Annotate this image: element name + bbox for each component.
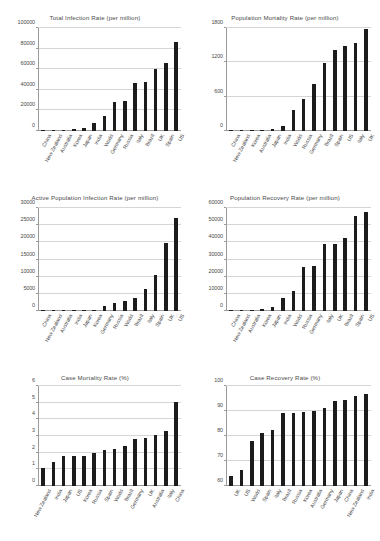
bar[interactable] [144, 438, 148, 486]
chart-panel-population-mortality-rate: Population Mortality Rate (per million) … [190, 0, 380, 180]
bar[interactable] [354, 43, 358, 131]
bar[interactable] [113, 303, 117, 311]
bar-slot [58, 208, 68, 311]
bar[interactable] [292, 110, 296, 131]
bar-slot [161, 386, 171, 486]
y-axis-tick-label: 1200 [211, 53, 223, 59]
bar-slot [361, 208, 371, 311]
bar-slot [319, 386, 329, 486]
bar[interactable] [41, 468, 45, 486]
bar[interactable] [364, 29, 368, 131]
plot-area: 0100002000030000400005000060000ChinaNew … [226, 208, 371, 311]
bar-slot [319, 28, 329, 131]
bar[interactable] [281, 413, 285, 486]
bar[interactable] [302, 99, 306, 131]
y-axis-tick-label: 20000 [21, 101, 36, 107]
bar[interactable] [333, 50, 337, 131]
bar[interactable] [174, 402, 178, 487]
bar-slot [340, 28, 350, 131]
bar[interactable] [281, 298, 285, 311]
bar[interactable] [229, 476, 233, 487]
bar[interactable] [154, 435, 158, 486]
bar[interactable] [364, 394, 368, 486]
bar[interactable] [292, 291, 296, 311]
y-axis-tick-label: 40000 [21, 81, 36, 87]
bar-slot [140, 28, 150, 131]
bar[interactable] [123, 301, 127, 311]
bar[interactable] [133, 439, 137, 487]
bar[interactable] [133, 83, 137, 131]
bar[interactable] [92, 123, 96, 131]
bar-slot [226, 386, 236, 486]
x-axis-labels: New ZealandIndiaJapanUSKoreaRussiaSpainW… [38, 486, 181, 534]
y-axis-tick-label: 10000 [209, 285, 224, 291]
bar[interactable] [271, 430, 275, 487]
bar[interactable] [82, 456, 86, 486]
bar[interactable] [52, 462, 56, 486]
bar-slot [278, 28, 288, 131]
x-axis-label: India [365, 488, 376, 501]
chart-panel-active-population-infection-rate: Active Population Infection Rate (per mi… [0, 180, 190, 360]
bar-slot [120, 386, 130, 486]
x-axis-labels: ChinaNew ZealandAustraliaKoreaJapanIndia… [38, 131, 181, 179]
x-axis-label: Brazil [133, 313, 144, 327]
y-axis-tick-label: 60 [217, 477, 223, 483]
bar[interactable] [354, 216, 358, 311]
chart-panel-population-recovery-rate: Population Recovery Rate (per million) 0… [190, 180, 380, 360]
bar[interactable] [164, 431, 168, 487]
bar[interactable] [123, 101, 127, 131]
bar[interactable] [343, 400, 347, 486]
x-axis-label: Brazil [143, 133, 154, 147]
bar[interactable] [103, 116, 107, 131]
y-axis-tick-label: 0 [220, 122, 223, 128]
bar-slot [299, 28, 309, 131]
bar[interactable] [312, 411, 316, 487]
bar[interactable] [72, 456, 76, 486]
bar[interactable] [343, 46, 347, 131]
bar-slot [257, 28, 267, 131]
bar-slot [48, 208, 58, 311]
bar[interactable] [323, 244, 327, 311]
bar[interactable] [260, 433, 264, 486]
bar[interactable] [133, 298, 137, 311]
bar[interactable] [144, 289, 148, 311]
x-axis-label: Italy [355, 133, 365, 144]
bar[interactable] [364, 212, 368, 311]
bar[interactable] [250, 441, 254, 487]
bar[interactable] [92, 453, 96, 486]
bar-slot [150, 208, 160, 311]
bar[interactable] [103, 450, 107, 486]
bar[interactable] [312, 266, 316, 311]
bar-slot [257, 208, 267, 311]
bar[interactable] [333, 401, 337, 486]
bar-slot [299, 386, 309, 486]
bar[interactable] [164, 63, 168, 131]
bar[interactable] [240, 470, 244, 486]
bar[interactable] [113, 449, 117, 486]
bar[interactable] [343, 238, 347, 311]
bar[interactable] [62, 456, 66, 486]
bar-slot [99, 386, 109, 486]
bar[interactable] [154, 275, 158, 311]
bar[interactable] [174, 218, 178, 311]
bar[interactable] [164, 243, 168, 311]
bar-slot [350, 28, 360, 131]
bar[interactable] [123, 446, 127, 486]
bar[interactable] [302, 267, 306, 311]
bar[interactable] [113, 102, 117, 131]
bar[interactable] [144, 82, 148, 131]
bar[interactable] [292, 413, 296, 486]
bar[interactable] [302, 412, 306, 486]
x-axis-label: Brazil [343, 313, 354, 327]
bar[interactable] [154, 69, 158, 131]
bar[interactable] [333, 244, 337, 311]
bar[interactable] [354, 396, 358, 486]
bar-slot [171, 28, 181, 131]
bar[interactable] [323, 408, 327, 487]
y-axis-tick-label: 40000 [209, 233, 224, 239]
bar[interactable] [323, 63, 327, 131]
y-axis-tick-label: 0 [32, 477, 35, 483]
bar[interactable] [312, 84, 316, 131]
bar-slot [267, 28, 277, 131]
bar[interactable] [174, 42, 178, 131]
